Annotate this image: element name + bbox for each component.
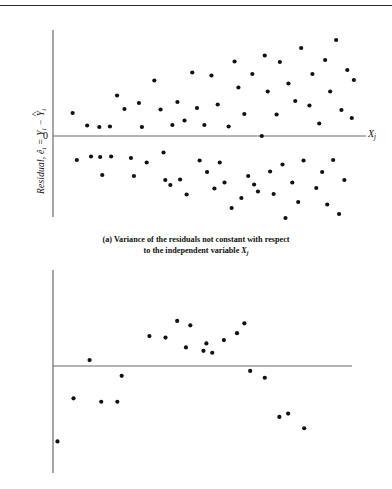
data-point — [242, 112, 246, 116]
data-point — [263, 53, 267, 57]
figure-caption-a-line2: to the independent variable Xj — [0, 245, 392, 257]
data-point — [302, 426, 306, 430]
data-point — [201, 349, 205, 353]
data-point — [85, 123, 89, 127]
data-point — [307, 103, 311, 107]
data-point — [266, 89, 270, 93]
scatter-plot-b-svg — [0, 258, 392, 473]
data-point — [147, 334, 151, 338]
data-point — [163, 335, 167, 339]
data-point — [122, 107, 126, 111]
data-point — [331, 158, 335, 162]
figure-caption-a: (a) Variance of the residuals not consta… — [0, 234, 392, 257]
data-point — [202, 123, 206, 127]
figure-panel-a: Residual, êi = Yi − ^Yi 0 Xj (a) Varianc… — [0, 12, 392, 244]
data-point — [71, 111, 75, 115]
y-axis-label-a: Residual, êi = Yi − ^Yi — [36, 109, 47, 194]
data-point — [290, 180, 294, 184]
data-point — [168, 183, 172, 187]
top-horizontal-rule — [0, 5, 392, 6]
data-point — [286, 411, 290, 415]
data-point — [283, 216, 287, 220]
data-point — [278, 60, 282, 64]
data-point — [175, 319, 179, 323]
data-point — [87, 358, 91, 362]
data-point-group-b — [55, 319, 306, 444]
data-point — [345, 68, 349, 72]
figure-caption-a-var-sub: j — [247, 250, 249, 256]
data-point — [209, 73, 213, 77]
data-point — [98, 155, 102, 159]
data-point — [275, 112, 279, 116]
data-point — [334, 38, 338, 42]
data-point — [301, 158, 305, 162]
data-point — [236, 85, 240, 89]
data-point — [310, 72, 314, 76]
data-point — [75, 158, 79, 162]
data-point — [109, 154, 113, 158]
data-point — [218, 160, 222, 164]
data-point — [195, 106, 199, 110]
data-point — [158, 107, 162, 111]
data-point — [178, 177, 182, 181]
data-point — [120, 374, 124, 378]
data-point — [115, 93, 119, 97]
data-point — [99, 400, 103, 404]
data-point — [342, 178, 346, 182]
figure-page: Residual, êi = Yi − ^Yi 0 Xj (a) Varianc… — [0, 0, 392, 489]
data-point — [296, 200, 300, 204]
data-point — [242, 321, 246, 325]
scatter-plot-a — [0, 12, 392, 222]
data-point — [260, 134, 264, 138]
data-point — [163, 178, 167, 182]
x-axis-label-a: Xj — [368, 128, 376, 141]
data-point — [161, 150, 165, 154]
figure-caption-a-line1: (a) Variance of the residuals not consta… — [0, 234, 392, 245]
data-point — [152, 78, 156, 82]
data-point — [352, 78, 356, 82]
y-axis-label-a-minus: − — [36, 116, 46, 128]
data-point — [137, 101, 141, 105]
data-point — [170, 123, 174, 127]
data-point — [188, 323, 192, 327]
data-point — [55, 439, 59, 443]
data-point — [175, 100, 179, 104]
data-point — [280, 162, 284, 166]
circumflex-accent-icon: ^ — [31, 111, 40, 117]
y-axis-label-a-yhat-wrap: ^Y — [36, 111, 46, 116]
data-point — [205, 170, 209, 174]
data-point — [250, 72, 254, 76]
data-point — [277, 415, 281, 419]
data-point — [140, 125, 144, 129]
data-point — [286, 81, 290, 85]
data-point — [339, 108, 343, 112]
figure-caption-a-line2-text: to the independent variable — [144, 246, 240, 255]
data-point — [337, 212, 341, 216]
data-point — [252, 182, 256, 186]
data-point — [190, 70, 194, 74]
data-point — [299, 46, 303, 50]
data-point — [235, 331, 239, 335]
data-point — [314, 186, 318, 190]
data-point — [185, 192, 189, 196]
data-point — [248, 369, 252, 373]
data-point — [222, 338, 226, 342]
data-point — [89, 154, 93, 158]
figure-panel-b: Residual, êi = Yi − ^Yi 0 Xj — [0, 258, 392, 489]
data-point — [145, 160, 149, 164]
data-point — [323, 58, 327, 62]
x-axis-label-a-sub: j — [374, 133, 376, 141]
data-point — [108, 124, 112, 128]
y-axis-label-a-text: Residual, ê — [36, 150, 46, 194]
data-point — [268, 169, 272, 173]
data-point — [212, 186, 216, 190]
data-point — [272, 192, 276, 196]
zero-tick-label-a: 0 — [43, 130, 48, 141]
data-point — [325, 202, 329, 206]
data-point — [129, 156, 133, 160]
data-point — [184, 345, 188, 349]
data-point — [132, 174, 136, 178]
data-point — [350, 116, 354, 120]
data-point — [216, 102, 220, 106]
data-point — [232, 59, 236, 63]
